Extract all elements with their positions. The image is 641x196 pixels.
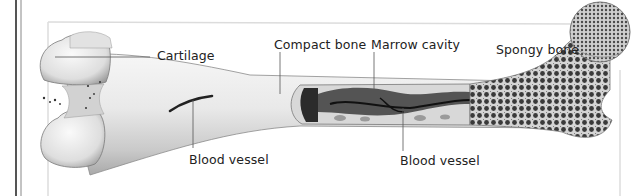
label-spongy-bone: Spongy bone: [496, 42, 579, 57]
marrow-cavity-illustration: [291, 84, 470, 125]
label-blood-vessel-left: Blood vessel: [189, 152, 269, 167]
femur-diagram: Cartilage Compact bone Marrow cavity Spo…: [0, 0, 641, 196]
label-compact-bone: Compact bone: [274, 37, 366, 52]
spongy-bone-illustration: [470, 2, 630, 137]
femur-illustration: [0, 0, 641, 196]
label-blood-vessel-right: Blood vessel: [400, 153, 480, 168]
label-cartilage: Cartilage: [157, 48, 215, 63]
label-marrow-cavity: Marrow cavity: [371, 37, 460, 52]
